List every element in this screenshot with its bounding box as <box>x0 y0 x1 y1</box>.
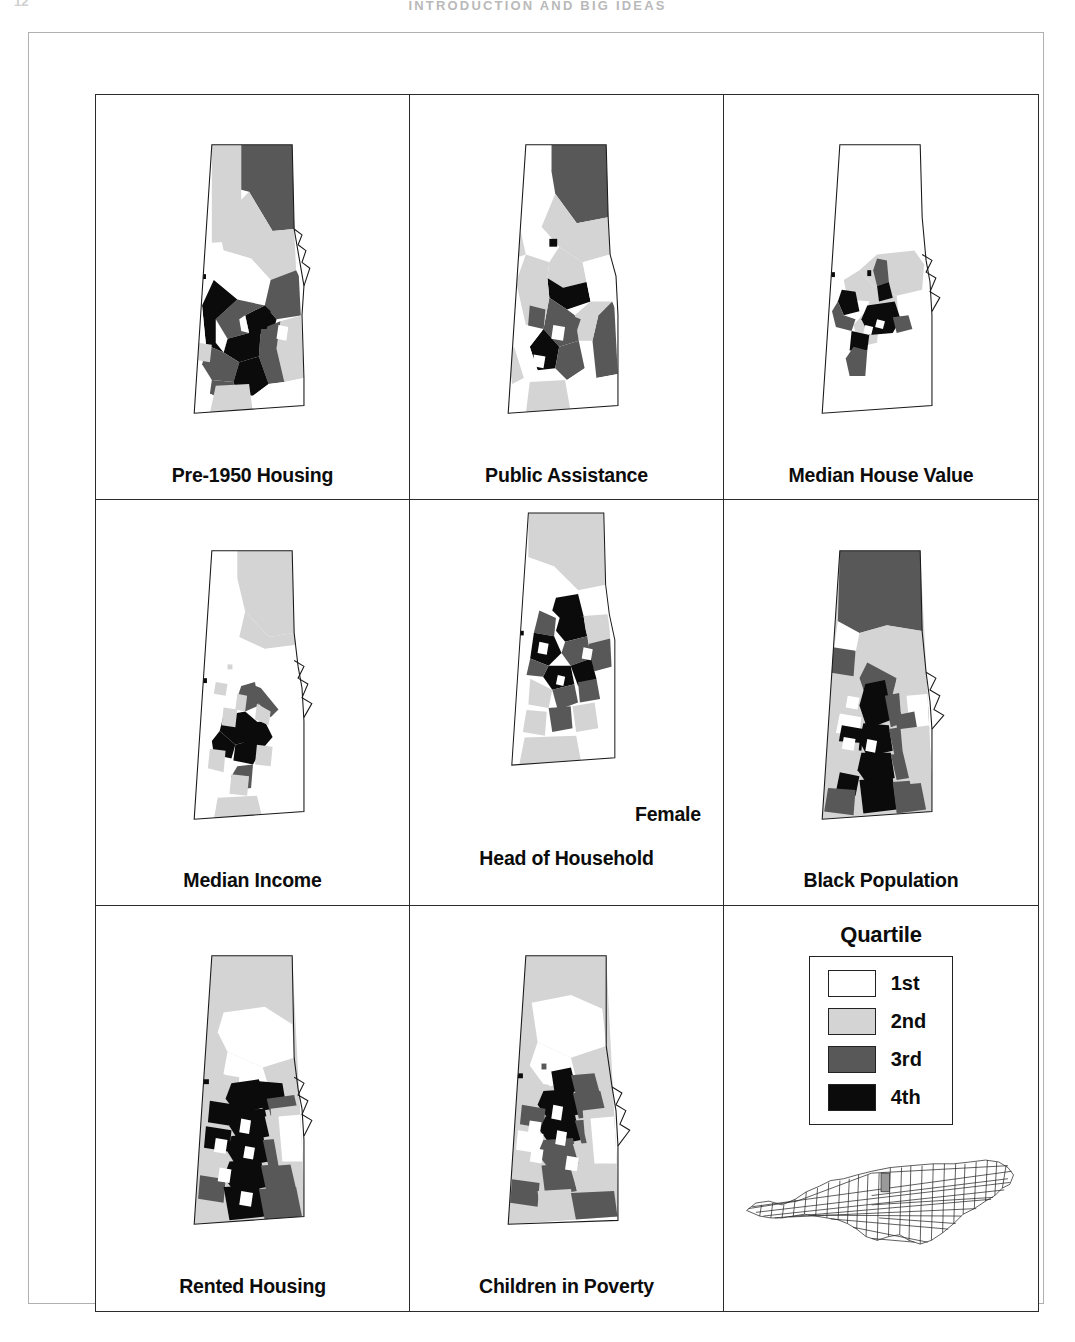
map-panel-female-head-of-household[interactable]: Female Head of Household <box>410 500 724 905</box>
figure-inner-frame: Pre-1950 Housing <box>95 94 1039 1312</box>
map-median-income <box>96 500 409 865</box>
legend-item-4th: 4th <box>828 1084 927 1111</box>
page-folio: 12 <box>14 0 28 9</box>
map-panel-median-income[interactable]: Median Income <box>96 500 410 905</box>
map-median-house-value <box>724 95 1038 460</box>
panel-label-children-in-poverty: Children in Poverty <box>410 1271 723 1311</box>
legend-swatch-2nd <box>828 1008 876 1035</box>
locator-inset <box>724 1147 1038 1259</box>
panel-label-line-1: Female <box>414 804 719 826</box>
figure-outer-frame: Pre-1950 Housing <box>28 32 1044 1304</box>
panel-label-female-head-of-household: Female Head of Household <box>410 778 723 905</box>
panel-label-median-income: Median Income <box>96 865 409 905</box>
legend-swatch-1st <box>828 970 876 997</box>
map-public-assistance <box>410 95 723 460</box>
map-panel-median-house-value[interactable]: Median House Value <box>724 95 1038 500</box>
map-panel-children-in-poverty[interactable]: Children in Poverty <box>410 906 724 1311</box>
legend-label-4th: 4th <box>891 1086 921 1109</box>
legend-panel: Quartile 1st 2nd 3rd <box>724 906 1038 1311</box>
map-pre-1950-housing <box>96 95 409 460</box>
map-rented-housing <box>96 906 409 1272</box>
legend-label-2nd: 2nd <box>891 1010 927 1033</box>
panel-label-public-assistance: Public Assistance <box>410 460 723 500</box>
map-matrix-grid: Pre-1950 Housing <box>96 95 1038 1311</box>
legend-item-2nd: 2nd <box>828 1008 927 1035</box>
legend-label-1st: 1st <box>891 972 920 995</box>
legend-item-1st: 1st <box>828 970 927 997</box>
map-black-population <box>724 500 1038 865</box>
legend-label-3rd: 3rd <box>891 1048 922 1071</box>
panel-label-pre-1950-housing: Pre-1950 Housing <box>96 460 409 500</box>
legend-title: Quartile <box>840 922 922 948</box>
map-female-head-of-household <box>410 500 723 777</box>
map-panel-public-assistance[interactable]: Public Assistance <box>410 95 724 500</box>
running-head-title: INTRODUCTION AND BIG IDEAS <box>408 0 666 13</box>
map-panel-black-population[interactable]: Black Population <box>724 500 1038 905</box>
map-panel-pre-1950-housing[interactable]: Pre-1950 Housing <box>96 95 410 500</box>
legend-box: 1st 2nd 3rd 4th <box>809 956 954 1125</box>
legend-item-3rd: 3rd <box>828 1046 927 1073</box>
map-panel-rented-housing[interactable]: Rented Housing <box>96 906 410 1311</box>
legend-swatch-3rd <box>828 1046 876 1073</box>
legend-swatch-4th <box>828 1084 876 1111</box>
panel-label-line-2: Head of Household <box>414 848 719 870</box>
panel-label-rented-housing: Rented Housing <box>96 1271 409 1311</box>
map-children-in-poverty <box>410 906 723 1272</box>
panel-label-black-population: Black Population <box>724 865 1038 905</box>
running-head: INTRODUCTION AND BIG IDEAS <box>0 0 1075 16</box>
panel-label-median-house-value: Median House Value <box>724 460 1038 500</box>
